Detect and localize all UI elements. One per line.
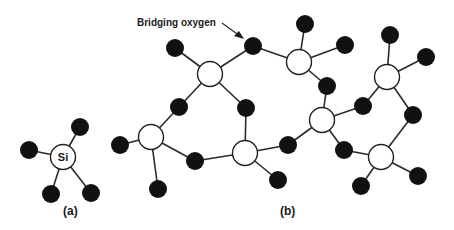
- oxygen-atom: [296, 15, 314, 33]
- oxygen-atom: [237, 99, 255, 117]
- oxygen-atom: [352, 177, 370, 195]
- oxygen-atom: [111, 136, 129, 154]
- oxygen-atom: [170, 98, 188, 116]
- silicon-atom: [375, 65, 400, 90]
- oxygen-atom: [318, 77, 336, 95]
- label-b: (b): [280, 204, 295, 218]
- oxygen-atom: [417, 48, 435, 66]
- oxygen-atom: [20, 141, 38, 159]
- oxygen-atom: [42, 185, 60, 203]
- label-a: (a): [63, 204, 78, 218]
- oxygen-atom: [82, 184, 100, 202]
- silicon-atom: [198, 62, 223, 87]
- oxygen-atom: [409, 167, 427, 185]
- oxygen-atom: [404, 106, 422, 124]
- silicon-atom: [139, 125, 164, 150]
- oxygen-atom: [269, 171, 287, 189]
- oxygen-atom: [335, 141, 353, 159]
- oxygen-atom: [244, 37, 262, 55]
- arrow-icon: [222, 23, 244, 39]
- bridging-oxygen-label: Bridging oxygen: [137, 17, 216, 28]
- oxygen-atom: [279, 136, 297, 154]
- oxygen-atom: [354, 97, 372, 115]
- oxygen-atom: [149, 180, 167, 198]
- oxygen-atom: [186, 152, 204, 170]
- silicon-atom: [369, 145, 394, 170]
- silicon-atom: [287, 50, 312, 75]
- silicon-atom: [310, 108, 335, 133]
- atoms: Si: [20, 15, 435, 203]
- oxygen-atom: [381, 26, 399, 44]
- oxygen-atom: [166, 39, 184, 57]
- diagram-canvas: Si: [0, 0, 454, 230]
- silicon-atom: [233, 141, 258, 166]
- si-label: Si: [58, 151, 68, 163]
- oxygen-atom: [336, 36, 354, 54]
- oxygen-atom: [71, 118, 89, 136]
- silica-structure-diagram: Si Bridging oxygen (a) (b): [0, 0, 454, 230]
